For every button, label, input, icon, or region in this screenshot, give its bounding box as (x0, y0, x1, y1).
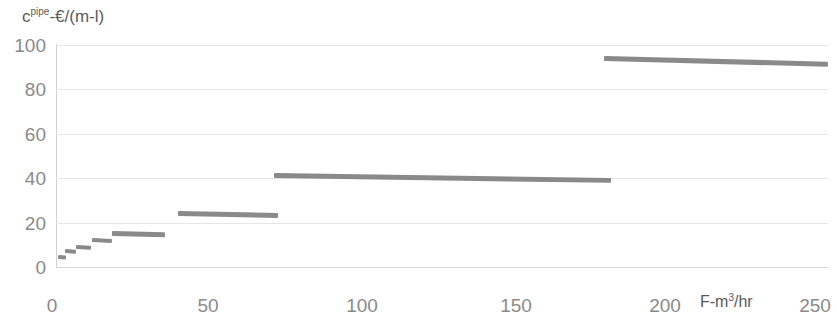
gridline (56, 89, 828, 90)
x-tick-label: 50 (178, 296, 238, 315)
x-tick-label: 250 (785, 296, 836, 315)
x-axis-title: F-m3/hr (700, 292, 753, 311)
y-axis-title-rest: -€/(m-l) (49, 7, 104, 26)
x-axis-line (56, 267, 828, 268)
data-segment (65, 249, 76, 254)
gridline (56, 45, 828, 46)
x-tick-label: 200 (635, 296, 695, 315)
y-tick-label: 0 (0, 258, 46, 277)
y-tick-label: 60 (0, 125, 46, 144)
x-axis-title-main: F-m (700, 293, 728, 310)
x-axis-title-rest: /hr (734, 293, 753, 310)
data-segment (604, 56, 828, 67)
data-segment (178, 211, 278, 218)
y-axis-title-superscript: pipe (31, 6, 50, 17)
y-tick-label: 20 (0, 214, 46, 233)
x-tick-label: 0 (22, 296, 82, 315)
data-segment (57, 255, 65, 260)
plot-area (56, 45, 828, 267)
gridline (56, 134, 828, 135)
data-segment (274, 173, 611, 183)
chart-title-cropped (150, 0, 570, 3)
y-tick-label: 40 (0, 169, 46, 188)
y-axis-title-main: c (22, 7, 31, 26)
x-tick-label: 100 (332, 296, 392, 315)
data-segment (112, 231, 165, 237)
x-tick-label: 150 (486, 296, 546, 315)
y-axis-title: cpipe-€/(m-l) (22, 6, 104, 27)
y-tick-label: 80 (0, 80, 46, 99)
gridline (56, 223, 828, 224)
y-tick-label: 100 (0, 36, 46, 55)
data-segment (91, 238, 111, 243)
chart-figure: cpipe-€/(m-l) F-m3/hr 100 80 60 40 20 0 … (0, 0, 836, 334)
data-segment (76, 245, 92, 250)
